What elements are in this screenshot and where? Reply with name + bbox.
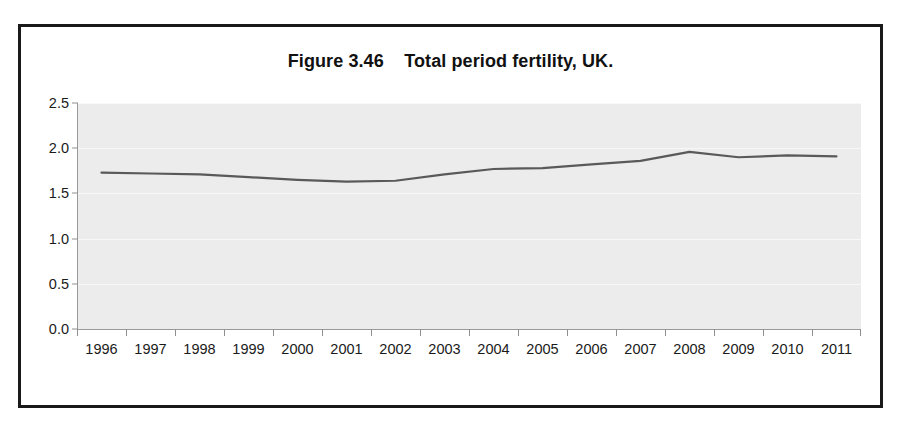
x-tick-2008: [665, 329, 666, 336]
line-series: [77, 103, 861, 329]
x-tick-2004: [469, 329, 470, 336]
x-tick-1999: [224, 329, 225, 336]
x-axis: 1996199719981999200020012002200320042005…: [77, 329, 861, 373]
x-axis-label-1999: 1999: [232, 341, 264, 357]
x-tick-1998: [175, 329, 176, 336]
y-axis-label: 0.5: [49, 276, 69, 292]
x-tick-2007: [616, 329, 617, 336]
x-axis-label-1997: 1997: [134, 341, 166, 357]
x-axis-label-2007: 2007: [624, 341, 656, 357]
figure-frame: Figure 3.46 Total period fertility, UK. …: [18, 24, 883, 408]
x-axis-label-2002: 2002: [379, 341, 411, 357]
y-axis-label: 0.0: [49, 321, 69, 337]
chart-plot-region: 0.00.51.01.52.02.5 199619971998199920002…: [77, 103, 861, 329]
x-tick-2003: [420, 329, 421, 336]
x-axis-label-2004: 2004: [477, 341, 509, 357]
x-axis-label-2011: 2011: [821, 341, 852, 357]
y-axis-label: 1.0: [49, 231, 69, 247]
x-tick-2001: [322, 329, 323, 336]
x-tick-2009: [714, 329, 715, 336]
x-tick-1997: [126, 329, 127, 336]
y-axis-label: 2.0: [49, 140, 69, 156]
x-tick-2000: [273, 329, 274, 336]
chart-title: Figure 3.46 Total period fertility, UK.: [21, 51, 880, 72]
x-axis-label-1998: 1998: [183, 341, 215, 357]
x-tick-2005: [518, 329, 519, 336]
x-axis-label-2010: 2010: [771, 341, 803, 357]
x-axis-label-2000: 2000: [281, 341, 313, 357]
x-axis-label-2009: 2009: [722, 341, 754, 357]
x-axis-label-2006: 2006: [575, 341, 607, 357]
fertility-line: [102, 152, 837, 182]
x-axis-label-2005: 2005: [526, 341, 558, 357]
x-axis-label-2008: 2008: [673, 341, 705, 357]
x-axis-label-1996: 1996: [85, 341, 117, 357]
y-axis-label: 1.5: [49, 185, 69, 201]
x-tick-2006: [567, 329, 568, 336]
x-axis-label-2001: 2001: [330, 341, 362, 357]
y-axis-label: 2.5: [49, 95, 69, 111]
x-tick-2002: [371, 329, 372, 336]
x-tick-end: [860, 329, 861, 336]
x-tick-2010: [763, 329, 764, 336]
x-tick-2011: [812, 329, 813, 336]
x-tick-1996: [77, 329, 78, 336]
x-axis-label-2003: 2003: [428, 341, 460, 357]
